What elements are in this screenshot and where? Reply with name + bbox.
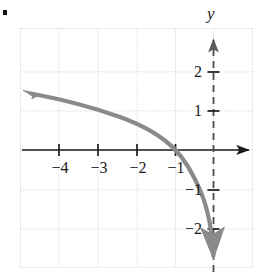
y-tick-label-1: 1 [188,103,202,119]
x-tick-label-neg4: −4 [48,160,72,176]
y-tick-label-2: 2 [188,64,202,80]
x-tick-label-neg3: −3 [87,160,111,176]
x-tick-label-neg1: −1 [164,160,188,176]
coordinate-plane [0,0,260,278]
graph-figure: y −4 −3 −2 −1 2 1 −1 −2 [0,0,260,278]
y-tick-label-neg2: −2 [180,221,202,237]
y-axis-label: y [207,5,215,22]
y-tick-label-neg1: −1 [180,182,202,198]
x-tick-label-neg2: −2 [126,160,150,176]
